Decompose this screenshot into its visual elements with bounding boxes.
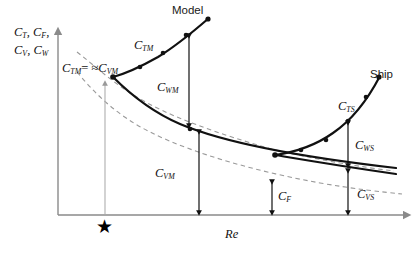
- branch-equation-sign: = ≈: [81, 61, 98, 75]
- label-cws: CWS: [355, 139, 374, 152]
- data-point: [299, 148, 304, 153]
- data-point: [346, 119, 351, 124]
- curve-cvm: [113, 77, 396, 168]
- label-cwm: CWM: [157, 81, 178, 94]
- figure-canvas: CT, CF, CV, CW Re Model Ship CTM CTM= ≈C…: [0, 0, 416, 255]
- label-cvs: CVS: [357, 188, 374, 201]
- label-ctm: CTM: [134, 39, 153, 52]
- data-point: [205, 16, 210, 21]
- label-cf: CF: [278, 190, 291, 203]
- data-point: [364, 95, 369, 100]
- curve-ctm: [113, 18, 209, 77]
- data-point: [138, 65, 143, 70]
- y-axis-label-line1: CT, CF,: [14, 26, 49, 39]
- curve-cvs: [275, 155, 396, 174]
- star-marker: ★: [96, 217, 113, 236]
- label-cvm-branch: CVM: [98, 61, 118, 75]
- label-cvm: CVM: [155, 167, 175, 180]
- label-cts: CTS: [338, 100, 355, 113]
- data-point: [188, 127, 193, 132]
- data-point: [161, 51, 166, 56]
- x-axis-label: Re: [225, 228, 238, 241]
- ship-curve-label: Ship: [370, 69, 393, 81]
- y-axis-label-line2: CV, CW: [14, 44, 48, 57]
- diagram-svg: [0, 0, 416, 255]
- label-ctm-branch: CTM: [62, 61, 81, 75]
- model-curve-label: Model: [172, 5, 203, 17]
- branch-point-ship: [272, 152, 278, 158]
- data-point: [324, 138, 329, 143]
- data-point: [184, 33, 189, 38]
- branch-equation: CTM= ≈CVM: [62, 62, 118, 75]
